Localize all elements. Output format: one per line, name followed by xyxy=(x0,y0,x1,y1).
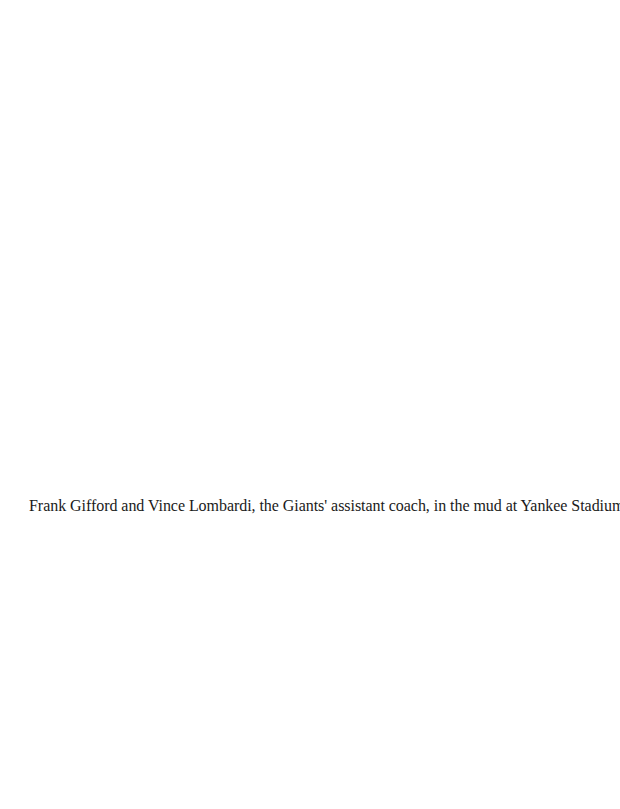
document-page: Frank Gifford and Vince Lombardi, the Gi… xyxy=(0,0,620,809)
photo-caption: Frank Gifford and Vince Lombardi, the Gi… xyxy=(29,496,599,516)
